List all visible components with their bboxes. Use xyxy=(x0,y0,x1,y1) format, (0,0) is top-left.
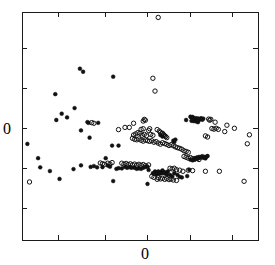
data-point-filled-6 xyxy=(65,115,69,119)
data-point-filled-3 xyxy=(53,92,57,96)
data-point-filled-64 xyxy=(146,182,150,186)
data-point-filled-18 xyxy=(72,167,76,171)
data-point-filled-1 xyxy=(81,70,85,74)
data-point-filled-5 xyxy=(60,112,64,116)
data-point-filled-66 xyxy=(185,174,189,178)
data-point-filled-15 xyxy=(117,144,121,148)
data-point-filled-20 xyxy=(104,156,108,160)
plot-frame xyxy=(23,13,259,241)
data-point-open-75 xyxy=(225,123,229,127)
x-axis-tick-label-zero: 0 xyxy=(141,245,149,263)
data-point-filled-43 xyxy=(111,179,115,183)
data-point-open-1 xyxy=(151,76,155,80)
data-point-open-82 xyxy=(245,142,249,146)
data-point-filled-65 xyxy=(180,175,184,179)
data-point-open-77 xyxy=(232,126,236,130)
data-point-filled-44 xyxy=(147,168,151,172)
data-point-open-76 xyxy=(223,129,227,133)
scatter-plot-canvas xyxy=(0,0,275,265)
data-point-filled-16 xyxy=(36,156,40,160)
data-point-filled-21 xyxy=(79,163,83,167)
data-point-filled-12 xyxy=(88,136,92,140)
data-point-filled-83 xyxy=(206,154,210,158)
data-point-filled-4 xyxy=(73,106,77,110)
data-point-filled-19 xyxy=(48,169,52,173)
data-point-open-125 xyxy=(217,169,221,173)
y-axis-tick-label-zero: 0 xyxy=(3,120,11,138)
data-point-filled-24 xyxy=(95,165,99,169)
data-point-filled-0 xyxy=(78,67,82,71)
data-point-filled-14 xyxy=(110,144,114,148)
data-point-filled-10 xyxy=(96,121,100,125)
data-point-filled-7 xyxy=(54,118,58,122)
data-point-open-126 xyxy=(242,179,246,183)
data-point-filled-17 xyxy=(38,165,42,169)
data-point-open-12 xyxy=(116,127,120,131)
data-point-filled-42 xyxy=(58,177,62,181)
data-point-open-10 xyxy=(123,125,127,129)
data-point-filled-11 xyxy=(79,129,83,133)
data-point-open-9 xyxy=(131,121,135,125)
data-point-open-3 xyxy=(27,180,31,184)
data-point-open-70 xyxy=(213,120,217,124)
data-point-filled-105 xyxy=(174,138,178,142)
data-point-filled-106 xyxy=(184,118,188,122)
series-open xyxy=(27,15,251,184)
data-point-filled-96 xyxy=(201,117,205,121)
data-point-open-124 xyxy=(203,169,207,173)
data-point-open-2 xyxy=(153,89,157,93)
data-point-filled-100 xyxy=(196,120,200,124)
data-point-open-0 xyxy=(156,15,160,19)
data-point-filled-2 xyxy=(111,75,115,79)
data-point-filled-13 xyxy=(25,142,29,146)
series-filled xyxy=(25,67,209,186)
data-point-open-11 xyxy=(127,125,131,129)
data-point-filled-98 xyxy=(190,119,194,123)
scatter-plot-figure: 0 0 xyxy=(0,0,275,265)
data-point-open-81 xyxy=(247,133,251,137)
